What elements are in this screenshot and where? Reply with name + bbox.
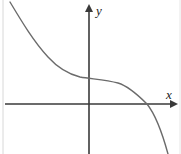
graph-figure: y x — [0, 0, 181, 154]
y-axis-arrow-icon — [85, 4, 93, 12]
coordinate-plot-svg: y x — [0, 0, 181, 154]
figure-frame — [3, 0, 180, 154]
x-axis-label: x — [165, 87, 172, 102]
x-axis — [5, 100, 178, 108]
y-axis-label: y — [94, 3, 102, 18]
